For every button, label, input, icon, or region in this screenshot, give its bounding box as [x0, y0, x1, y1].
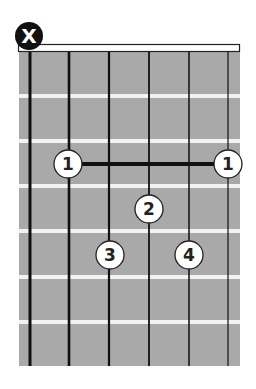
finger-label: 1	[62, 154, 74, 174]
nut	[19, 45, 240, 52]
finger-label: 3	[104, 245, 116, 265]
finger-dot-2: 2	[135, 195, 163, 223]
finger-dot-1a: 1	[54, 150, 82, 178]
finger-dot-3: 3	[96, 241, 124, 269]
finger-label: 4	[183, 245, 195, 265]
finger-dot-4: 4	[175, 241, 203, 269]
finger-dot-1b: 1	[214, 150, 242, 178]
fret-line-2	[19, 139, 240, 143]
chord-diagram: 1 1 2 3 4 X	[0, 0, 256, 389]
fret-line-6	[19, 320, 240, 324]
finger-label: 1	[222, 154, 234, 174]
muted-string-marker: X	[15, 22, 43, 50]
muted-label: X	[21, 24, 37, 48]
fret-line-1	[19, 94, 240, 98]
finger-label: 2	[143, 199, 155, 219]
fret-line-4	[19, 229, 240, 233]
fret-line-3	[19, 184, 240, 188]
fret-line-5	[19, 275, 240, 279]
fretboard	[19, 52, 240, 366]
